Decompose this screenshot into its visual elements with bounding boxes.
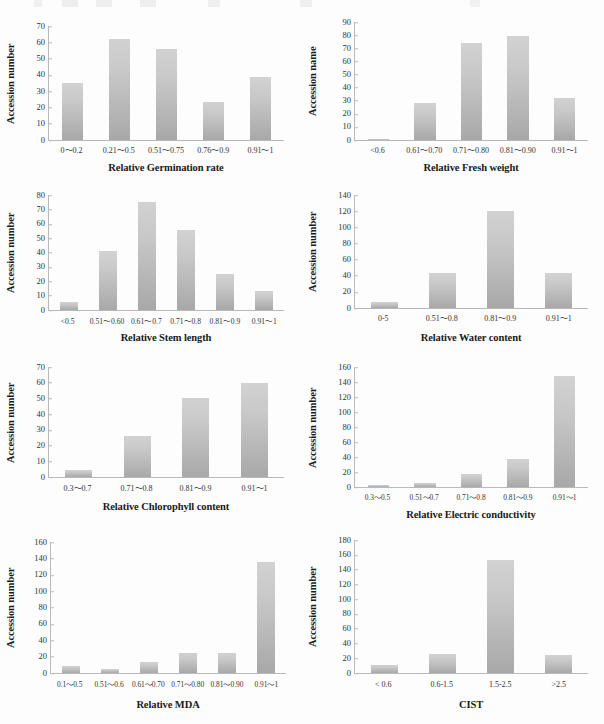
x-tick-labels-stem-length: <0.50.51～0.600.61～0.70.71～0.80.81～0.90.9… bbox=[48, 318, 284, 326]
bar bbox=[109, 39, 131, 140]
y-tick-chlorophyll-content: 10 bbox=[37, 457, 50, 466]
y-axis-label-electric-conductivity: Accession number bbox=[304, 367, 320, 488]
y-tick-electric-conductivity: 100 bbox=[338, 408, 355, 417]
plot-area-chlorophyll-content: 010203040506070 bbox=[48, 367, 284, 478]
x-tick-label: 0.91～1 bbox=[541, 147, 588, 156]
x-tick-label: 0.91～1 bbox=[237, 147, 284, 156]
y-tick-relative-mda: 0 bbox=[43, 669, 51, 678]
bar bbox=[507, 36, 528, 140]
x-tick-label: 0-5 bbox=[354, 315, 413, 324]
plot-area-fresh-weight: 0102030405060708090 bbox=[354, 22, 588, 141]
y-tick-relative-mda: 60 bbox=[39, 620, 52, 629]
y-tick-stem-length: 30 bbox=[37, 263, 50, 272]
y-tick-chlorophyll-content: 60 bbox=[37, 378, 50, 387]
y-tick-electric-conductivity: 80 bbox=[343, 423, 356, 432]
bar-slot bbox=[245, 195, 284, 310]
y-tick-water-content: 120 bbox=[338, 207, 355, 216]
x-tick-labels-cist: < 0.60.6-1.51.5-2.5>2.5 bbox=[354, 681, 588, 690]
x-tick-label: 0.51～0.7 bbox=[401, 494, 448, 502]
chart-panel-stem-length: Accession number01020304050607080<0.50.5… bbox=[0, 183, 302, 353]
chart-panel-water-content: Accession number0204060801001201400-50.5… bbox=[302, 183, 604, 353]
x-tick-label: 0.71～0.8 bbox=[107, 485, 166, 494]
bar bbox=[62, 83, 84, 140]
bar bbox=[218, 653, 236, 673]
y-tick-stem-length: 70 bbox=[37, 205, 50, 214]
bar-slot bbox=[530, 540, 588, 673]
bar-slot bbox=[355, 22, 402, 140]
y-tick-fresh-weight: 10 bbox=[343, 123, 356, 132]
y-axis-label-germination-rate: Accession number bbox=[2, 26, 18, 141]
bar bbox=[65, 470, 92, 477]
y-tick-fresh-weight: 70 bbox=[343, 44, 356, 53]
y-tick-water-content: 60 bbox=[343, 255, 356, 264]
x-tick-labels-chlorophyll-content: 0.3～0.70.71～0.80.81～0.90.91～1 bbox=[48, 485, 284, 494]
y-tick-relative-mda: 140 bbox=[34, 554, 51, 563]
y-tick-electric-conductivity: 0 bbox=[347, 483, 355, 492]
y-tick-germination-rate: 0 bbox=[41, 136, 49, 145]
bar bbox=[507, 459, 528, 487]
figure-panel-grid: Accession number0102030405060700～0.20.21… bbox=[0, 0, 604, 724]
bar bbox=[250, 77, 272, 141]
plot-area-cist: 020406080100120140160180 bbox=[354, 540, 588, 674]
bar-slot bbox=[167, 195, 206, 310]
y-tick-germination-rate: 60 bbox=[37, 38, 50, 47]
y-tick-relative-mda: 20 bbox=[39, 652, 52, 661]
y-tick-chlorophyll-content: 50 bbox=[37, 394, 50, 403]
bar bbox=[371, 302, 398, 308]
y-tick-chlorophyll-content: 20 bbox=[37, 441, 50, 450]
bar-slot bbox=[402, 22, 449, 140]
bar bbox=[203, 102, 225, 140]
x-tick-label: 0.3～0.5 bbox=[354, 494, 401, 502]
y-tick-stem-length: 0 bbox=[41, 306, 49, 315]
y-tick-stem-length: 50 bbox=[37, 234, 50, 243]
x-tick-label: 0.91～1 bbox=[247, 681, 286, 689]
bar bbox=[554, 98, 575, 140]
x-tick-label: 0.81～0.9 bbox=[494, 494, 541, 502]
bar-slot bbox=[413, 540, 471, 673]
y-tick-relative-mda: 160 bbox=[34, 538, 51, 547]
y-tick-electric-conductivity: 40 bbox=[343, 453, 356, 462]
y-tick-electric-conductivity: 140 bbox=[338, 378, 355, 387]
bar bbox=[99, 251, 117, 310]
y-tick-germination-rate: 50 bbox=[37, 54, 50, 63]
y-tick-water-content: 80 bbox=[343, 239, 356, 248]
y-tick-relative-mda: 40 bbox=[39, 636, 52, 645]
bar bbox=[138, 202, 156, 310]
bar bbox=[414, 483, 435, 487]
y-tick-electric-conductivity: 120 bbox=[338, 393, 355, 402]
x-tick-label: 0.71～0.80 bbox=[448, 147, 495, 156]
y-tick-water-content: 40 bbox=[343, 271, 356, 280]
bar-slot bbox=[402, 367, 449, 487]
x-tick-labels-fresh-weight: <0.60.61～0.700.71～0.800.81～0.900.91～1 bbox=[354, 147, 588, 156]
bar-slot bbox=[169, 542, 208, 673]
bar-slot bbox=[495, 367, 542, 487]
bar bbox=[461, 474, 482, 488]
y-axis-label-water-content: Accession number bbox=[304, 195, 320, 309]
chart-panel-germination-rate: Accession number0102030405060700～0.20.21… bbox=[0, 8, 302, 183]
bar-series-electric-conductivity bbox=[355, 367, 588, 487]
scan-artifact bbox=[0, 0, 604, 7]
y-tick-chlorophyll-content: 70 bbox=[37, 363, 50, 372]
bar-series-stem-length bbox=[49, 195, 284, 310]
y-tick-germination-rate: 70 bbox=[37, 22, 50, 31]
plot-area-relative-mda: 020406080100120140160 bbox=[50, 542, 286, 674]
bar-slot bbox=[96, 26, 143, 140]
bar-slot bbox=[355, 367, 402, 487]
x-axis-label-chlorophyll-content: Relative Chlorophyll content bbox=[48, 501, 284, 512]
bar-slot bbox=[355, 540, 413, 673]
y-tick-cist: 140 bbox=[338, 565, 355, 574]
bar-series-fresh-weight bbox=[355, 22, 588, 140]
y-tick-germination-rate: 40 bbox=[37, 71, 50, 80]
bar-slot bbox=[448, 22, 495, 140]
x-tick-label: 1.5-2.5 bbox=[471, 681, 530, 690]
x-tick-label: 0.71～0.8 bbox=[448, 494, 495, 502]
y-tick-water-content: 20 bbox=[343, 288, 356, 297]
bar-slot bbox=[225, 367, 284, 477]
bar-slot bbox=[51, 542, 90, 673]
x-tick-label: 0.81～0.9 bbox=[205, 318, 244, 326]
chart-panel-fresh-weight: Accession name0102030405060708090<0.60.6… bbox=[302, 8, 604, 183]
bar bbox=[545, 655, 572, 673]
bar bbox=[545, 273, 572, 308]
y-axis-label-cist: Accession number bbox=[304, 540, 320, 674]
plot-area-water-content: 020406080100120140 bbox=[354, 195, 588, 309]
